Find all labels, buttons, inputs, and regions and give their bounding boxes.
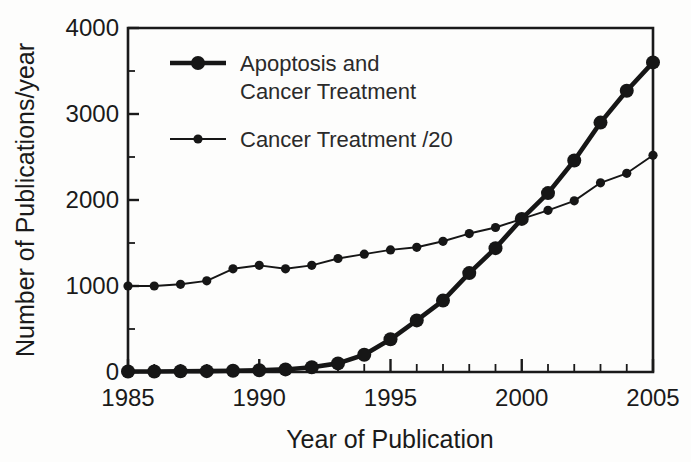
data-point-marker [174,364,188,378]
data-point-marker [567,153,581,167]
data-point-marker [489,241,503,255]
y-axis-tick-labels: 01000200030004000 [66,14,119,385]
data-point-marker [386,245,395,254]
data-point-marker [360,250,369,259]
x-tick-label: 1985 [101,384,154,411]
y-tick-label: 0 [106,358,119,385]
chart-figure: 01000200030004000 19851990199520002005 N… [0,0,691,462]
data-point-marker [438,237,447,246]
data-point-marker [176,280,185,289]
legend-entry: Apoptosis andCancer Treatment [170,51,416,104]
y-axis-title: Number of Publications/year [11,43,39,357]
legend-label-line2: Cancer Treatment [240,79,416,104]
data-point-marker [331,356,345,370]
data-point-marker [620,84,634,98]
data-point-marker [622,169,631,178]
publications-line-chart: 01000200030004000 19851990199520002005 N… [0,0,691,462]
data-point-marker [200,364,214,378]
data-point-marker [436,294,450,308]
x-tick-label: 1995 [364,384,417,411]
data-point-marker [279,362,293,376]
data-point-marker [202,276,211,285]
data-point-marker [150,281,159,290]
data-point-marker [252,363,266,377]
data-point-marker [465,229,474,238]
data-point-marker [307,261,316,270]
series-path [128,155,653,286]
x-tick-label: 2000 [495,384,548,411]
y-tick-label: 2000 [66,186,119,213]
data-point-marker [646,55,660,69]
data-point-marker [255,261,264,270]
data-point-marker [570,196,579,205]
legend-label: Cancer Treatment /20 [240,127,453,152]
data-point-marker [357,348,371,362]
y-axis-major-ticks [128,28,139,372]
data-point-marker [123,281,132,290]
legend-label: Apoptosis and [240,51,379,76]
data-point-marker [596,178,605,187]
data-point-marker [541,186,555,200]
data-point-marker [121,365,135,379]
x-axis-tick-labels: 19851990199520002005 [101,384,679,411]
data-point-marker [594,116,608,130]
data-point-marker [228,264,237,273]
data-point-marker [305,360,319,374]
y-tick-label: 1000 [66,272,119,299]
legend-marker [193,134,202,143]
series-cancer-treatment-div20 [123,151,657,291]
data-point-marker [333,254,342,263]
data-point-marker [412,243,421,252]
legend-entry: Cancer Treatment /20 [170,127,453,152]
data-point-marker [281,264,290,273]
y-tick-label: 4000 [66,14,119,41]
x-tick-label: 2005 [626,384,679,411]
data-point-marker [543,206,552,215]
data-point-marker [226,364,240,378]
y-tick-label: 3000 [66,100,119,127]
x-tick-label: 1990 [233,384,286,411]
data-point-marker [147,364,161,378]
data-point-marker [384,332,398,346]
chart-legend: Apoptosis andCancer TreatmentCancer Trea… [170,51,453,152]
x-axis-title: Year of Publication [286,425,494,453]
legend-marker [191,56,205,70]
data-point-marker [491,223,500,232]
data-point-marker [462,266,476,280]
data-point-marker [410,313,424,327]
data-point-marker [515,212,529,226]
series-path [128,62,653,371]
data-point-marker [648,151,657,160]
